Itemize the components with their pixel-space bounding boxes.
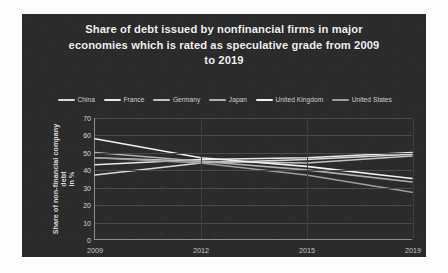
legend-label: United States (352, 96, 392, 103)
legend-item-united-kingdom[interactable]: United Kingdom (256, 96, 323, 103)
x-axis-tick-label: 2009 (87, 246, 103, 255)
plot-area: 0102030405060702009201220152019 (94, 118, 412, 240)
y-axis-tick-label: 30 (83, 184, 91, 191)
chart-title: Share of debt issued by nonfinancial fir… (36, 22, 412, 69)
y-gridline (95, 170, 412, 171)
x-gridline (413, 118, 414, 239)
legend-item-germany[interactable]: Germany (153, 96, 200, 103)
y-axis-title: Share of non-financial company debt in % (52, 118, 66, 240)
legend-label: Japan (229, 96, 247, 103)
y-gridline (95, 135, 412, 136)
legend-swatch-icon (104, 99, 121, 101)
y-axis-title-line-1: Share of non-financial company debt (52, 118, 68, 240)
y-gridline (95, 205, 412, 206)
legend-swatch-icon (209, 99, 226, 101)
y-axis-tick-label: 0 (87, 237, 91, 244)
legend-swatch-icon (153, 99, 170, 101)
legend-item-united-states[interactable]: United States (332, 96, 392, 103)
chart-panel: Share of debt issued by nonfinancial fir… (22, 14, 426, 257)
y-axis-tick-label: 70 (83, 115, 91, 122)
y-axis-tick-label: 50 (83, 149, 91, 156)
legend-label: France (124, 96, 145, 103)
x-axis-tick-label: 2012 (193, 246, 209, 255)
legend-swatch-icon (58, 99, 75, 101)
x-axis-tick-label: 2019 (405, 246, 421, 255)
legend-swatch-icon (256, 99, 273, 101)
y-axis-tick-label: 60 (83, 132, 91, 139)
legend-item-japan[interactable]: Japan (209, 96, 247, 103)
y-axis-title-line-2: in % (68, 118, 76, 240)
legend-item-france[interactable]: France (104, 96, 144, 103)
series-line-china (95, 154, 412, 175)
y-axis-tick-label: 10 (83, 219, 91, 226)
chart-page: Share of debt issued by nonfinancial fir… (0, 0, 448, 273)
chart-title-line-2: economies which is rated as speculative … (36, 38, 412, 54)
chart-title-line-1: Share of debt issued by nonfinancial fir… (36, 22, 412, 38)
legend-label: Germany (173, 96, 200, 103)
legend-swatch-icon (332, 99, 349, 101)
y-gridline (95, 153, 412, 154)
y-gridline (95, 223, 412, 224)
y-gridline (95, 188, 412, 189)
y-axis-tick-label: 40 (83, 167, 91, 174)
x-axis-tick-label: 2015 (299, 246, 315, 255)
x-gridline (201, 118, 202, 239)
legend-label: China (78, 96, 95, 103)
chart-title-line-3: to 2019 (36, 53, 412, 69)
chart-legend: ChinaFranceGermanyJapanUnited KingdomUni… (32, 96, 418, 103)
legend-label: United Kingdom (276, 96, 324, 103)
x-gridline (307, 118, 308, 239)
legend-item-china[interactable]: China (58, 96, 95, 103)
y-axis-tick-label: 20 (83, 202, 91, 209)
y-gridline (95, 118, 412, 119)
